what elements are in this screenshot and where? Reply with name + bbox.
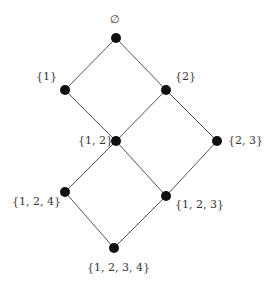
edge-s124-s1234	[65, 192, 114, 248]
edge-s2-s12	[116, 90, 166, 141]
edge-empty-s2	[116, 38, 166, 90]
label-s23: {2, 3}	[228, 135, 263, 146]
label-s1234: {1, 2, 3, 4}	[87, 262, 150, 273]
label-s124: {1, 2, 4}	[12, 196, 61, 207]
node-s124	[60, 187, 70, 197]
node-s23	[212, 136, 222, 146]
edge-s12-s124	[65, 141, 116, 192]
edge-s123-s1234	[114, 196, 166, 248]
edge-s2-s23	[166, 90, 217, 141]
label-s123: {1, 2, 3}	[175, 199, 224, 210]
label-s2: {2}	[175, 71, 196, 82]
node-s123	[161, 191, 171, 201]
node-s1	[60, 85, 70, 95]
edge-empty-s1	[65, 38, 116, 90]
node-empty	[111, 33, 121, 43]
edge-s12-s123	[116, 141, 166, 196]
node-s1234	[109, 243, 119, 253]
label-s1: {1}	[36, 71, 57, 82]
hasse-diagram	[0, 0, 267, 286]
label-s12: {1, 2}	[78, 135, 113, 146]
node-s2	[161, 85, 171, 95]
label-empty: ∅	[110, 14, 120, 25]
edge-s23-s123	[166, 141, 217, 196]
